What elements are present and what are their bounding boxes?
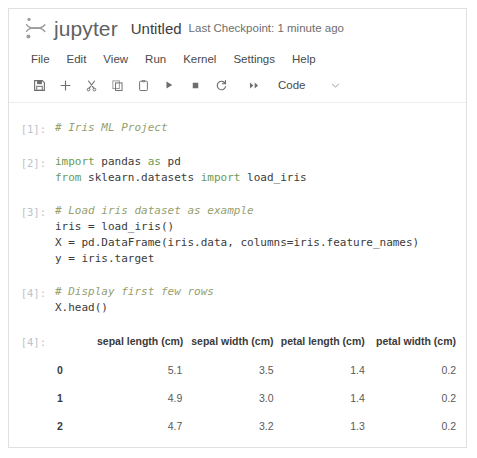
menu-item-kernel[interactable]: Kernel: [183, 53, 216, 65]
save-icon: [33, 79, 46, 92]
code-token: # Load iris dataset as example: [55, 204, 254, 217]
notebook-header: jupyter Untitled Last Checkpoint: 1 minu…: [9, 9, 466, 47]
cell-value: 4.6: [97, 440, 188, 448]
code-token: from: [55, 171, 82, 184]
table-header-row: sepal length (cm) sepal width (cm) petal…: [55, 333, 462, 356]
row-index: 0: [55, 356, 97, 384]
code-cell-2[interactable]: [2]: import pandas as pd from sklearn.da…: [9, 154, 466, 186]
table-row: 3 4.6 3.1 1.5 0.2: [55, 440, 462, 448]
cell-type-value[interactable]: Code: [278, 79, 306, 91]
column-header-petal-width: petal width (cm): [371, 333, 462, 356]
cell-value: 4.7: [97, 412, 188, 440]
column-header-sepal-width: sepal width (cm): [188, 333, 279, 356]
menu-item-view[interactable]: View: [103, 53, 128, 65]
code-token: iris = load_iris(): [55, 220, 174, 233]
column-header-index: [55, 333, 97, 356]
cell-value: 1.4: [280, 384, 371, 412]
menu-item-run[interactable]: Run: [145, 53, 166, 65]
menu-item-help[interactable]: Help: [292, 53, 316, 65]
menu-item-settings[interactable]: Settings: [233, 53, 275, 65]
stop-icon: [190, 80, 201, 91]
last-checkpoint-label: Last Checkpoint: 1 minute ago: [189, 22, 344, 34]
run-cell-button[interactable]: [158, 75, 180, 95]
code-cell-1[interactable]: [1]: # Iris ML Project: [9, 120, 466, 137]
run-icon: [163, 79, 175, 91]
cell-output-4: [4]: sepal length (cm) sepal width (cm) …: [9, 333, 466, 448]
code-token: load_iris: [240, 171, 306, 184]
restart-run-all-icon: [248, 79, 261, 92]
cell-source[interactable]: import pandas as pd from sklearn.dataset…: [55, 154, 456, 186]
menu-item-file[interactable]: File: [31, 53, 50, 65]
add-cell-icon: [59, 79, 72, 92]
cell-value: 3.2: [188, 412, 279, 440]
cell-source[interactable]: # Iris ML Project: [55, 120, 456, 136]
row-index: 1: [55, 384, 97, 412]
code-token: pandas: [95, 155, 148, 168]
cell-value: 0.2: [371, 440, 462, 448]
cell-value: 3.5: [188, 356, 279, 384]
cut-icon: [85, 79, 98, 92]
row-index: 3: [55, 440, 97, 448]
cell-prompt: [3]:: [9, 203, 55, 220]
dataframe-output: sepal length (cm) sepal width (cm) petal…: [55, 333, 466, 448]
cell-value: 0.2: [371, 384, 462, 412]
cell-value: 3.1: [188, 440, 279, 448]
code-cell-4[interactable]: [4]: # Display first few rows X.head(): [9, 284, 466, 316]
copy-cell-button[interactable]: [106, 75, 128, 95]
cell-value: 0.2: [371, 412, 462, 440]
table-head: sepal length (cm) sepal width (cm) petal…: [55, 333, 462, 356]
cell-source[interactable]: # Display first few rows X.head(): [55, 284, 456, 316]
menu-item-edit[interactable]: Edit: [67, 53, 87, 65]
cell-type-dropdown[interactable]: [330, 80, 341, 91]
code-token: import: [55, 155, 95, 168]
cell-value: 1.5: [280, 440, 371, 448]
column-header-petal-length: petal length (cm): [280, 333, 371, 356]
table-row: 1 4.9 3.0 1.4 0.2: [55, 384, 462, 412]
cell-value: 5.1: [97, 356, 188, 384]
code-token: X = pd.DataFrame(iris.data, columns=iris…: [55, 236, 419, 249]
code-token: sklearn.datasets: [82, 171, 201, 184]
row-index: 2: [55, 412, 97, 440]
restart-kernel-button[interactable]: [210, 75, 232, 95]
code-token: # Iris ML Project: [55, 121, 168, 134]
cell-value: 4.9: [97, 384, 188, 412]
cell-value: 3.0: [188, 384, 279, 412]
paste-cell-button[interactable]: [132, 75, 154, 95]
code-token: pd: [161, 155, 181, 168]
cell-value: 1.4: [280, 356, 371, 384]
restart-run-all-button[interactable]: [243, 75, 265, 95]
column-header-sepal-length: sepal length (cm): [97, 333, 188, 356]
cut-cell-button[interactable]: [80, 75, 102, 95]
table-row: 0 5.1 3.5 1.4 0.2: [55, 356, 462, 384]
chevron-down-icon: [330, 80, 341, 91]
insert-cell-button[interactable]: [54, 75, 76, 95]
code-token: as: [148, 155, 161, 168]
interrupt-kernel-button[interactable]: [184, 75, 206, 95]
cell-prompt: [1]:: [9, 120, 55, 137]
output-prompt: [4]:: [9, 333, 55, 350]
toolbar: Code: [9, 71, 466, 99]
cell-prompt: [4]:: [9, 284, 55, 301]
code-token: y = iris.target: [55, 252, 154, 265]
copy-icon: [111, 79, 124, 92]
cell-prompt: [2]:: [9, 154, 55, 171]
notebook-window: jupyter Untitled Last Checkpoint: 1 minu…: [8, 8, 467, 448]
code-token: X.head(): [55, 301, 108, 314]
code-token: import: [201, 171, 241, 184]
save-button[interactable]: [28, 75, 50, 95]
table-row: 2 4.7 3.2 1.3 0.2: [55, 412, 462, 440]
brand-name: jupyter: [54, 18, 118, 39]
jupyter-logo-icon: [23, 16, 49, 40]
notebook-cells: [1]: # Iris ML Project [2]: import panda…: [9, 103, 466, 448]
table-body: 0 5.1 3.5 1.4 0.2 1 4.9 3.0 1.4 0.2: [55, 356, 462, 448]
dataframe-table: sepal length (cm) sepal width (cm) petal…: [55, 333, 462, 448]
code-cell-3[interactable]: [3]: # Load iris dataset as example iris…: [9, 203, 466, 267]
cell-source[interactable]: # Load iris dataset as example iris = lo…: [55, 203, 456, 267]
cell-value: 1.3: [280, 412, 371, 440]
code-token: # Display first few rows: [55, 285, 214, 298]
paste-icon: [137, 79, 150, 92]
notebook-title[interactable]: Untitled: [131, 20, 182, 37]
restart-icon: [215, 79, 228, 92]
menu-bar: File Edit View Run Kernel Settings Help: [9, 47, 466, 71]
cell-value: 0.2: [371, 356, 462, 384]
